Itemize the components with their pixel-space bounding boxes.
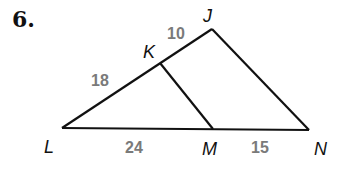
vertex-label-n: N <box>314 139 328 159</box>
length-label-lk: 18 <box>91 72 109 89</box>
length-label-lm: 24 <box>125 139 143 156</box>
vertex-label-k: K <box>143 42 156 62</box>
segment-km <box>160 63 213 129</box>
length-label-mn: 15 <box>251 139 269 156</box>
vertex-label-m: M <box>202 139 217 159</box>
length-label-kj: 10 <box>167 25 185 42</box>
vertex-label-j: J <box>202 6 213 26</box>
segment-lj <box>62 29 212 128</box>
segment-jn <box>212 29 309 130</box>
vertex-label-l: L <box>44 137 54 157</box>
segment-ln <box>62 128 309 130</box>
triangle-diagram: J K L M N 10 18 24 15 <box>0 0 345 173</box>
